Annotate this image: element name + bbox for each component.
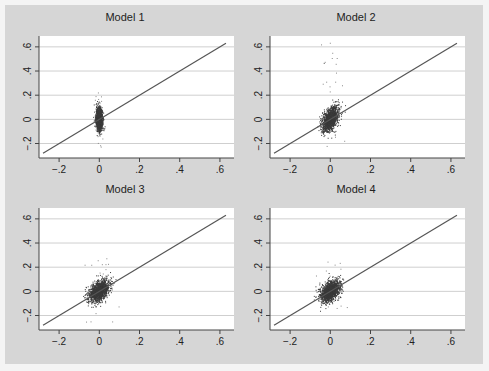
- y-tick-label: .4: [22, 238, 33, 247]
- y-tick-label: .4: [253, 238, 264, 247]
- y-tick-label: .6: [253, 214, 264, 223]
- y-tick-label: .6: [253, 42, 264, 51]
- scatter-plot: −.20.2.4.6−.20.2.4.6: [236, 177, 476, 355]
- y-tick-label: .4: [22, 66, 33, 75]
- y-tick-label: 0: [22, 288, 33, 294]
- y-tick-label: .2: [22, 91, 33, 100]
- y-tick-label: 0: [22, 116, 33, 122]
- panel-model-4: Model 4 −.20.2.4.6−.20.2.4.6: [236, 177, 476, 355]
- x-tick-label: 0: [328, 336, 334, 347]
- x-tick-label: .2: [135, 164, 144, 175]
- y-tick-label: .2: [253, 263, 264, 272]
- y-tick-label: .6: [22, 214, 33, 223]
- x-tick-label: −.2: [52, 164, 67, 175]
- x-tick-label: .2: [366, 164, 375, 175]
- y-tick-label: .2: [253, 91, 264, 100]
- x-tick-label: .4: [176, 336, 185, 347]
- x-tick-label: −.2: [283, 336, 298, 347]
- panel-model-2: Model 2 −.20.2.4.6−.20.2.4.6: [236, 5, 476, 183]
- x-tick-label: −.2: [283, 164, 298, 175]
- x-tick-label: .4: [176, 164, 185, 175]
- figure-background: Model 1 −.20.2.4.6−.20.2.4.6 Model 2 −.2…: [5, 5, 483, 364]
- y-tick-label: −.2: [22, 136, 33, 151]
- x-tick-label: 0: [97, 336, 103, 347]
- scatter-plot: −.20.2.4.6−.20.2.4.6: [236, 5, 476, 183]
- y-tick-label: 0: [253, 288, 264, 294]
- x-tick-label: 0: [97, 164, 103, 175]
- x-tick-label: .6: [447, 336, 456, 347]
- y-tick-label: 0: [253, 116, 264, 122]
- panel-model-3: Model 3 −.20.2.4.6−.20.2.4.6: [5, 177, 245, 355]
- x-tick-label: .4: [407, 164, 416, 175]
- x-tick-label: −.2: [52, 336, 67, 347]
- y-tick-label: −.2: [253, 136, 264, 151]
- scatter-plot: −.20.2.4.6−.20.2.4.6: [5, 5, 245, 183]
- x-tick-label: .6: [216, 336, 225, 347]
- panel-model-1: Model 1 −.20.2.4.6−.20.2.4.6: [5, 5, 245, 183]
- y-tick-label: .6: [22, 42, 33, 51]
- y-tick-label: .4: [253, 66, 264, 75]
- x-tick-label: .6: [447, 164, 456, 175]
- x-tick-label: .4: [407, 336, 416, 347]
- x-tick-label: .2: [366, 336, 375, 347]
- x-tick-label: 0: [328, 164, 334, 175]
- scatter-plot: −.20.2.4.6−.20.2.4.6: [5, 177, 245, 355]
- x-tick-label: .2: [135, 336, 144, 347]
- y-tick-label: −.2: [253, 308, 264, 323]
- y-tick-label: −.2: [22, 308, 33, 323]
- x-tick-label: .6: [216, 164, 225, 175]
- y-tick-label: .2: [22, 263, 33, 272]
